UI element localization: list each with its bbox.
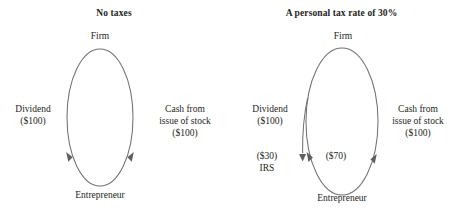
edge-label-dividend-line1: Dividend: [2, 103, 64, 115]
figure-canvas: No taxes Firm Entrepreneur Dividend ($10…: [0, 0, 455, 213]
edge-label-cash-line3: ($100): [145, 127, 225, 139]
edge-label-cash-line3: ($100): [380, 127, 455, 139]
node-label-entrepreneur: Entrepreneur: [40, 189, 160, 201]
node-label-firm: Firm: [288, 30, 398, 42]
edge-label-cash-line1: Cash from: [380, 103, 455, 115]
irs-arrowhead-icon: [299, 154, 306, 162]
node-label-irs: IRS: [243, 162, 291, 174]
node-label-firm: Firm: [0, 30, 200, 42]
edge-label-dividend: Dividend ($100): [239, 103, 301, 127]
edge-label-cash-line2: issue of stock: [145, 115, 225, 127]
panel-no-taxes: No taxes Firm Entrepreneur Dividend ($10…: [0, 0, 228, 213]
edge-label-cash-from-issue: Cash from issue of stock ($100): [380, 103, 455, 139]
panel-personal-tax-30: A personal tax rate of 30% Firm Entrepre…: [228, 0, 455, 213]
circulation-ellipse: [67, 49, 133, 186]
edge-label-tax-amount: ($30): [243, 150, 291, 162]
edge-label-net-amount: ($70): [316, 150, 356, 162]
node-label-entrepreneur: Entrepreneur: [282, 192, 402, 204]
edge-label-cash-line1: Cash from: [145, 103, 225, 115]
edge-label-dividend-line2: ($100): [2, 115, 64, 127]
edge-label-cash-line2: issue of stock: [380, 115, 455, 127]
edge-label-net-dividend: ($70): [316, 150, 356, 162]
edge-label-cash-from-issue: Cash from issue of stock ($100): [145, 103, 225, 139]
edge-label-dividend-line1: Dividend: [239, 103, 301, 115]
edge-label-dividend-line2: ($100): [239, 115, 301, 127]
edge-label-irs-tax: ($30) IRS: [243, 150, 291, 174]
circulation-ellipse: [306, 48, 378, 195]
edge-label-dividend: Dividend ($100): [2, 103, 64, 127]
